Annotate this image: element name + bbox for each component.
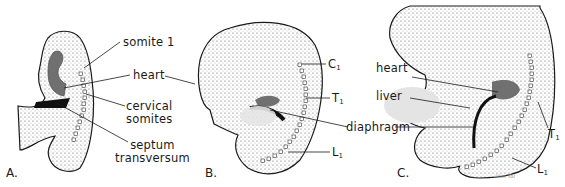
- artist-signature: Van Tol: [496, 170, 515, 183]
- label-c1: C1: [328, 58, 341, 75]
- label-l1-c: L1: [537, 163, 548, 180]
- embryo-b: [198, 22, 348, 173]
- label-t1-b-sub: 1: [339, 98, 344, 106]
- label-l1-b-text: L: [332, 145, 339, 159]
- label-septum-line1: septum: [130, 138, 175, 152]
- label-somite-1: somite 1: [123, 36, 175, 49]
- label-cervical-somites: cervical somites: [126, 100, 172, 126]
- panel-label-a: A.: [6, 166, 18, 180]
- label-diaphragm: diaphragm: [346, 121, 410, 134]
- label-l1-c-sub: 1: [544, 169, 549, 177]
- label-septum-line2: transversum: [115, 151, 190, 165]
- label-l1-b: L1: [332, 146, 343, 163]
- embryo-illustrations: [0, 0, 565, 187]
- label-t1-b: T1: [332, 92, 344, 109]
- label-c1-sub: 1: [336, 64, 341, 72]
- label-liver: liver: [376, 90, 402, 103]
- label-cervical-line1: cervical: [126, 99, 172, 113]
- label-septum-transversum: septum transversum: [115, 139, 190, 165]
- panel-label-b: B.: [205, 166, 217, 180]
- label-l1-c-text: L: [537, 162, 544, 176]
- label-t1-c-sub: 1: [555, 134, 560, 142]
- label-t1-c: T1: [548, 128, 560, 145]
- label-l1-b-sub: 1: [339, 152, 344, 160]
- embryo-c: [384, 6, 555, 178]
- label-heart-c: heart: [376, 62, 408, 75]
- panel-label-c: C.: [397, 166, 409, 180]
- label-c1-text: C: [328, 57, 336, 71]
- label-cervical-line2: somites: [126, 112, 172, 126]
- label-heart-a: heart: [133, 69, 165, 82]
